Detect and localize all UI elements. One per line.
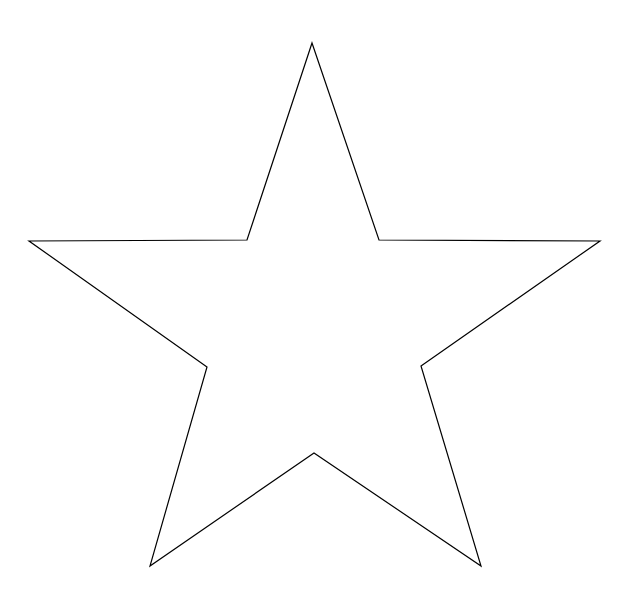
star-outline [29, 43, 600, 566]
drawing-canvas [0, 0, 632, 602]
star-icon [0, 0, 632, 602]
